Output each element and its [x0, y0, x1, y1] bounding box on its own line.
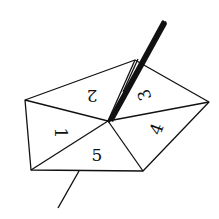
spinner-diagram: 1 2 3 4 5: [0, 0, 219, 219]
section-label-5: 5: [92, 145, 103, 165]
spinner-outline: [25, 60, 209, 171]
section-dividers: [25, 59, 209, 171]
section-label-1: 1: [51, 128, 71, 139]
section-label-4: 4: [145, 120, 167, 137]
section-label-3: 3: [133, 87, 155, 104]
pencil-pointer: [58, 21, 167, 208]
section-label-2: 2: [87, 86, 98, 106]
